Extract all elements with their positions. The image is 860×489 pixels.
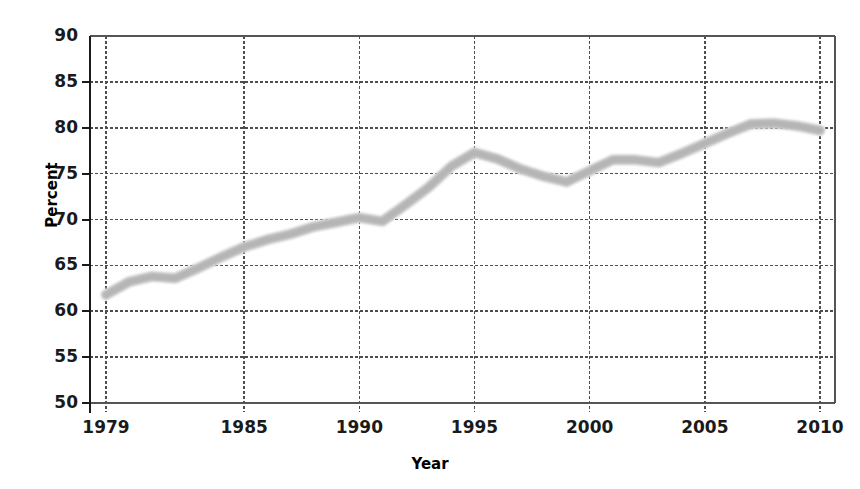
y-tick-label-65: 65	[38, 254, 78, 274]
x-tick-label-1995: 1995	[435, 417, 515, 437]
y-tick-label-80: 80	[38, 117, 78, 137]
y-tick-label-90: 90	[38, 25, 78, 45]
x-tick-label-1979: 1979	[66, 417, 146, 437]
x-tick-label-2010: 2010	[780, 417, 860, 437]
data-line-percent	[106, 123, 820, 295]
x-tick-label-1990: 1990	[319, 417, 399, 437]
y-tick-label-60: 60	[38, 300, 78, 320]
x-tick-label-2005: 2005	[665, 417, 745, 437]
vertical-gridlines	[106, 36, 820, 412]
chart-plot-area	[0, 0, 860, 489]
y-tick-label-55: 55	[38, 346, 78, 366]
y-axis-title: Percent	[43, 135, 61, 255]
y-tick-label-85: 85	[38, 71, 78, 91]
data-line-halo	[106, 123, 820, 295]
y-tick-label-50: 50	[38, 392, 78, 412]
horizontal-gridlines	[90, 82, 835, 357]
axis-tick-marks	[82, 82, 90, 403]
x-tick-label-2000: 2000	[550, 417, 630, 437]
x-tick-label-1985: 1985	[204, 417, 284, 437]
data-series-line	[106, 123, 820, 295]
line-chart: 505560657075808590 197919851990199520002…	[0, 0, 860, 489]
x-axis-title: Year	[0, 455, 860, 473]
